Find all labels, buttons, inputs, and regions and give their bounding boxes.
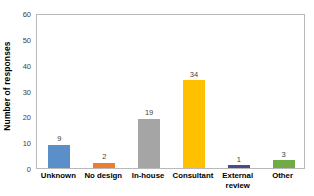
y-axis-title-text: Number of responses [2,41,12,130]
x-axis-tick-label: Unknown [36,171,81,181]
y-axis-tick-labels: 0102030405060 [14,0,34,176]
bar-slot: 2 [82,15,127,168]
bar-slot: 19 [127,15,172,168]
bar[interactable] [183,80,205,168]
bar-value-label: 1 [237,155,241,164]
bar-slot: 34 [172,15,217,168]
y-axis-tick-label: 30 [23,87,31,96]
bar[interactable] [273,160,295,168]
bar-value-label: 2 [102,152,106,161]
bar[interactable] [48,145,70,168]
y-axis-tick-label: 20 [23,113,31,122]
y-axis-tick-label: 10 [23,139,31,148]
y-axis-tick-label: 60 [23,10,31,19]
x-axis-tick-label: External review [215,171,260,190]
bar-slot: 1 [216,15,261,168]
bar-value-label: 9 [57,134,61,143]
bar[interactable] [228,165,250,168]
bar-value-label: 19 [145,108,153,117]
bar-chart: Number of responses 0102030405060 921934… [0,0,314,196]
y-axis-tick-label: 50 [23,35,31,44]
bar-value-label: 3 [281,150,285,159]
x-axis-tick-label: In-house [126,171,171,181]
y-axis-tick-label: 40 [23,61,31,70]
bar-value-label: 34 [190,70,198,79]
bar-slot: 3 [261,15,306,168]
x-axis-tick-labels: UnknownNo designIn-houseConsultantExtern… [36,171,305,196]
plot-area: 92193413 [36,14,305,169]
bar[interactable] [138,119,160,168]
y-axis-title: Number of responses [0,0,14,172]
bar[interactable] [93,163,115,168]
x-axis-tick-label: No design [81,171,126,181]
x-axis-tick-label: Other [260,171,305,181]
bar-slot: 9 [37,15,82,168]
x-axis-tick-label: Consultant [171,171,216,181]
bars-layer: 92193413 [37,15,304,168]
y-axis-tick-label: 0 [27,165,31,174]
